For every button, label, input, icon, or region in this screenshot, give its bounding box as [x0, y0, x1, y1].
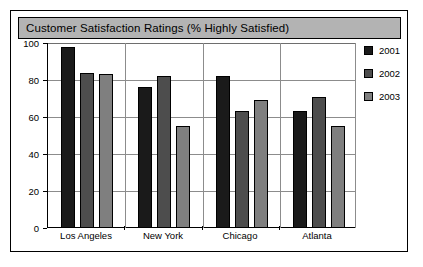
chart-title: Customer Satisfaction Ratings (% Highly … — [19, 22, 289, 34]
x-tick-mark — [202, 226, 203, 230]
x-tick-label: Chicago — [223, 230, 258, 241]
bar-group — [48, 43, 125, 228]
plot-area — [47, 43, 356, 228]
x-tick-mark — [279, 226, 280, 230]
bar[interactable] — [293, 111, 307, 228]
x-tick-label: Atlanta — [302, 230, 332, 241]
y-tick-label: 20 — [28, 186, 39, 197]
chart-screenshot: Customer Satisfaction Ratings (% Highly … — [0, 0, 423, 267]
legend-item[interactable]: 2002 — [364, 68, 416, 78]
bar[interactable] — [157, 76, 171, 228]
chart-object-frame: Customer Satisfaction Ratings (% Highly … — [10, 10, 408, 252]
y-tick-mark — [43, 80, 47, 81]
y-tick-label: 100 — [23, 38, 39, 49]
legend-swatch-icon — [364, 46, 373, 55]
plot-wrapper: 020406080100 Los AngelesNew YorkChicagoA… — [47, 43, 356, 238]
y-tick-label: 0 — [34, 223, 39, 234]
y-tick-label: 60 — [28, 112, 39, 123]
y-tick-mark — [43, 43, 47, 44]
bar-group — [125, 43, 202, 228]
bar[interactable] — [331, 126, 345, 228]
bar[interactable] — [216, 76, 230, 228]
legend-label: 2003 — [379, 91, 400, 102]
legend-item[interactable]: 2001 — [364, 45, 416, 55]
chart-legend: 200120022003 — [364, 45, 416, 114]
y-tick-mark — [43, 191, 47, 192]
bar[interactable] — [254, 100, 268, 228]
legend-swatch-icon — [364, 92, 373, 101]
x-axis-labels: Los AngelesNew YorkChicagoAtlanta — [47, 230, 356, 246]
bar[interactable] — [99, 74, 113, 228]
bar[interactable] — [80, 73, 94, 228]
chart-title-bar: Customer Satisfaction Ratings (% Highly … — [18, 17, 401, 39]
x-tick-mark — [124, 226, 125, 230]
bar-group — [280, 43, 357, 228]
bar[interactable] — [176, 126, 190, 228]
legend-label: 2002 — [379, 68, 400, 79]
x-tick-label: Los Angeles — [60, 230, 112, 241]
y-tick-mark — [43, 117, 47, 118]
bar[interactable] — [138, 87, 152, 228]
y-tick-label: 40 — [28, 149, 39, 160]
y-tick-mark — [43, 154, 47, 155]
bar[interactable] — [235, 111, 249, 228]
legend-label: 2001 — [379, 45, 400, 56]
bar[interactable] — [312, 97, 326, 228]
y-tick-label: 80 — [28, 75, 39, 86]
bars-layer — [48, 43, 356, 228]
legend-item[interactable]: 2003 — [364, 91, 416, 101]
legend-swatch-icon — [364, 69, 373, 78]
bar-group — [203, 43, 280, 228]
y-tick-mark — [43, 228, 47, 229]
bar[interactable] — [61, 47, 75, 228]
x-tick-label: New York — [143, 230, 183, 241]
